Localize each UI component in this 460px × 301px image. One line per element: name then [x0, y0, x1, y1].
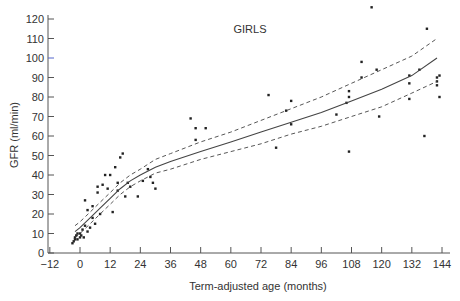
data-point: [84, 225, 86, 227]
data-point: [142, 180, 144, 182]
data-point: [114, 166, 116, 168]
data-point: [436, 84, 438, 86]
y-tick-label: 10: [32, 228, 44, 240]
data-point: [375, 69, 377, 71]
data-point: [89, 226, 91, 228]
data-point: [124, 195, 126, 197]
data-point: [137, 195, 139, 197]
plot-area: [71, 6, 440, 244]
data-point: [83, 236, 85, 238]
data-point: [360, 76, 362, 78]
y-tick-label: 80: [32, 91, 44, 103]
x-tick-label: 0: [77, 258, 83, 270]
data-point: [335, 113, 337, 115]
confidence-band-line: [75, 39, 437, 226]
data-point: [96, 186, 98, 188]
data-point: [111, 211, 113, 213]
data-point: [86, 209, 88, 211]
data-point: [147, 168, 149, 170]
data-point: [267, 94, 269, 96]
y-tick-label: 90: [32, 72, 44, 84]
data-point: [101, 184, 103, 186]
data-point: [76, 238, 78, 240]
data-point: [378, 115, 380, 117]
x-tick-label: −12: [40, 258, 59, 270]
data-point: [154, 187, 156, 189]
x-tick-label: 48: [195, 258, 207, 270]
data-point: [408, 98, 410, 100]
data-point: [117, 182, 119, 184]
data-point: [122, 152, 124, 154]
y-tick-label: 20: [32, 208, 44, 220]
x-tick-label: 60: [225, 258, 237, 270]
x-axis: −1201224364860728496108120132144: [40, 247, 451, 270]
y-tick-label: 70: [32, 111, 44, 123]
data-point: [290, 100, 292, 102]
data-point: [149, 176, 151, 178]
confidence-band-line: [75, 81, 437, 237]
y-axis: 0102030405060708090100110120: [26, 13, 54, 259]
y-tick-label: 120: [26, 13, 44, 25]
data-point: [275, 147, 277, 149]
data-point: [152, 182, 154, 184]
data-point: [80, 234, 82, 236]
y-tick-label: 110: [26, 33, 44, 45]
data-point: [106, 187, 108, 189]
fitted-mean-line: [75, 58, 437, 232]
data-point: [438, 96, 440, 98]
y-tick-label: 60: [32, 130, 44, 142]
data-point: [408, 82, 410, 84]
data-point: [438, 74, 440, 76]
x-tick-label: 36: [164, 258, 176, 270]
x-tick-label: 120: [372, 258, 390, 270]
y-tick-label: 100: [26, 52, 44, 64]
x-tick-label: 12: [104, 258, 116, 270]
data-point: [436, 76, 438, 78]
data-point: [189, 117, 191, 119]
data-point: [194, 139, 196, 141]
data-point: [76, 232, 78, 234]
data-point: [370, 6, 372, 8]
y-tick-label: 50: [32, 150, 44, 162]
data-point: [86, 230, 88, 232]
data-point: [104, 174, 106, 176]
x-tick-label: 108: [342, 258, 360, 270]
y-axis-label: GFR (ml/min): [8, 102, 20, 168]
data-point: [423, 135, 425, 137]
y-tick-label: 40: [32, 169, 44, 181]
data-point: [194, 127, 196, 129]
x-axis-label: Term-adjusted age (months): [189, 280, 327, 292]
x-tick-label: 84: [285, 258, 297, 270]
data-point: [348, 96, 350, 98]
x-tick-label: 96: [315, 258, 327, 270]
data-point: [360, 61, 362, 63]
x-tick-label: 132: [403, 258, 421, 270]
data-point: [96, 191, 98, 193]
data-point: [204, 127, 206, 129]
x-tick-label: 144: [433, 258, 451, 270]
data-point: [290, 123, 292, 125]
data-point: [426, 28, 428, 30]
data-point: [348, 90, 350, 92]
data-point: [109, 174, 111, 176]
data-point: [91, 205, 93, 207]
x-tick-label: 72: [255, 258, 267, 270]
chart-title: GIRLS: [233, 23, 266, 35]
x-tick-label: 24: [134, 258, 146, 270]
y-tick-label: 30: [32, 189, 44, 201]
data-point: [119, 156, 121, 158]
data-point: [348, 150, 350, 152]
data-point: [84, 199, 86, 201]
gfr-chart: 0102030405060708090100110120 −1201224364…: [0, 0, 460, 301]
data-point: [94, 223, 96, 225]
